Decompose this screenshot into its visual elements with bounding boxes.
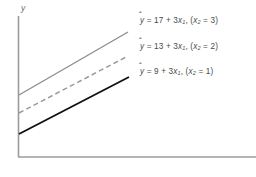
yhat-symbol-3: y	[140, 68, 144, 76]
x-subscript-2: 1	[182, 45, 185, 51]
y-axis-label: y	[21, 3, 25, 13]
yhat-symbol-2: y	[140, 43, 144, 51]
plot-area	[0, 0, 256, 177]
yhat-symbol-1: y	[140, 17, 144, 25]
x-subscript-3: 1	[177, 70, 180, 76]
cond-value-3: = 1)	[198, 67, 213, 76]
equation-body-3: = 9 + 3	[147, 67, 174, 76]
cond-subscript-1: 2	[197, 19, 200, 25]
cond-subscript-3: 2	[193, 70, 196, 76]
annotation-line-x2-1: y = 9 + 3x1, (x2 = 1)	[140, 68, 213, 76]
cond-value-2: = 2)	[203, 42, 218, 51]
cond-subscript-2: 2	[197, 45, 200, 51]
cond-value-1: = 3)	[203, 16, 218, 25]
comma-paren-2: , (	[185, 42, 193, 51]
series-line-x2-2	[19, 56, 128, 113]
x-subscript-1: 1	[182, 19, 185, 25]
equation-body-2: = 13 + 3	[147, 42, 178, 51]
regression-lines-figure: y y = 17 + 3x1, (x2 = 3) y = 13 + 3x1, (…	[0, 0, 256, 177]
equation-body-1: = 17 + 3	[147, 16, 178, 25]
comma-paren-1: , (	[185, 16, 193, 25]
annotation-line-x2-3: y = 17 + 3x1, (x2 = 3)	[140, 17, 218, 25]
annotation-line-x2-2: y = 13 + 3x1, (x2 = 2)	[140, 43, 218, 51]
